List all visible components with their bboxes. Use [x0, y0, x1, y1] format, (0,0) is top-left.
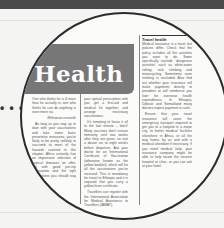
article-column-left: As long as you stay up to date with your… [32, 122, 76, 202]
paragraph: Travellers can register with the Interna… [84, 190, 128, 207]
paragraph: As long as you stay up to date with your… [32, 122, 76, 182]
paragraph: It's tempting to leave it all to the las… [84, 120, 128, 189]
column-rule [139, 35, 140, 205]
article-column-middle: your optical prescription with you; get … [84, 97, 128, 207]
top-dark-strip [0, 0, 224, 9]
paragraph: Ensure that your travel insurance will c… [142, 112, 192, 168]
paragraph: Medical insurance is a must, but policie… [142, 42, 192, 111]
intro-quote: One who thinks he is ill more than he ac… [32, 97, 76, 114]
section-title: Health [34, 60, 123, 87]
sidebar-rule [142, 35, 192, 36]
intro-quote-block: One who thinks he is ill more than he ac… [32, 97, 76, 119]
newspaper-page: Health Travel health One who thinks he i… [20, 12, 224, 220]
article-column-right: Medical insurance is a must, but policie… [142, 42, 192, 207]
column-rule [80, 94, 81, 204]
paragraph: your optical prescription with you; get … [84, 97, 128, 118]
magnifier-lens: Health Travel health One who thinks he i… [20, 12, 224, 220]
intro-credit: (Ethiopian proverb) [32, 116, 76, 119]
